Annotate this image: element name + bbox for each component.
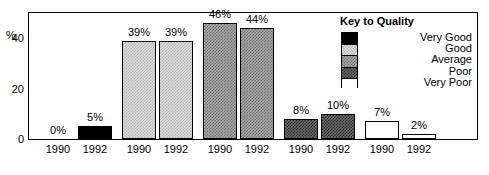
x-axis-label: 1992 (74, 144, 116, 155)
bar-group: 5% (78, 13, 112, 139)
legend-swatch (342, 55, 357, 66)
x-axis-label: 1990 (199, 144, 241, 155)
legend-swatch (342, 33, 357, 44)
legend-labels: Very GoodGoodAveragePoorVery Poor (366, 32, 472, 88)
x-axis-label: 1990 (361, 144, 403, 155)
x-axis-label: 1990 (280, 144, 322, 155)
legend-swatch (342, 67, 357, 78)
bar-group: 8% (284, 13, 318, 139)
legend-swatch (342, 78, 357, 89)
bar-value-label: 2% (394, 120, 444, 131)
x-axis-label: 1990 (37, 144, 79, 155)
bar (122, 41, 156, 139)
bar-group: 44% (240, 13, 274, 139)
bar-value-label: 0% (33, 125, 83, 136)
bar-value-label: 10% (313, 100, 363, 111)
y-axis-tick-40: 40 (2, 33, 24, 44)
bar-group: 39% (159, 13, 193, 139)
x-axis-label: 1990 (118, 144, 160, 155)
bar (284, 119, 318, 139)
x-axis-label: 1992 (236, 144, 278, 155)
legend: Key to Quality Very GoodGoodAveragePoorV… (338, 16, 474, 90)
bar (402, 134, 436, 139)
bar (159, 41, 193, 139)
bar (321, 114, 355, 139)
bar-group: 46% (203, 13, 237, 139)
y-axis-tick-20: 20 (2, 84, 24, 95)
bar-value-label: 44% (232, 14, 282, 25)
bar-value-label: 7% (357, 107, 407, 118)
x-axis-label: 1992 (155, 144, 197, 155)
legend-swatches (341, 32, 358, 88)
legend-title: Key to Quality (340, 16, 414, 27)
bar (240, 28, 274, 139)
bar-value-label: 39% (151, 27, 201, 38)
y-axis-tick-0: 0 (2, 134, 24, 145)
bar-value-label: 5% (70, 112, 120, 123)
bar (78, 126, 112, 139)
x-axis-label: 1992 (317, 144, 359, 155)
chart-container: % 40 20 0 0%5%39%39%46%44%8%10%7%2% 1990… (0, 0, 489, 175)
legend-swatch (342, 44, 357, 55)
legend-label: Average (366, 54, 472, 65)
legend-label: Very Poor (366, 77, 472, 88)
bar (203, 23, 237, 139)
x-axis-label: 1992 (398, 144, 440, 155)
